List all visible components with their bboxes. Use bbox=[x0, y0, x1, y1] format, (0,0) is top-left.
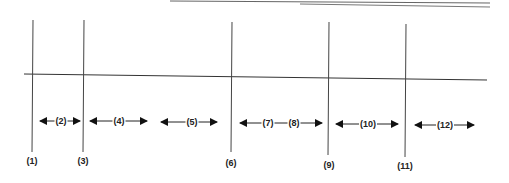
line-label-11: (11) bbox=[397, 161, 413, 171]
line-label-3: (3) bbox=[78, 156, 89, 166]
diagram-canvas bbox=[0, 0, 509, 183]
page-edge-lines bbox=[170, 1, 490, 7]
vertical-line-11 bbox=[405, 24, 406, 157]
interval-label-10: (10) bbox=[359, 119, 377, 129]
interval-label-5: (5) bbox=[186, 117, 199, 127]
line-label-6: (6) bbox=[226, 158, 237, 168]
vertical-line-6 bbox=[231, 22, 232, 152]
horizontal-line bbox=[24, 74, 487, 80]
vertical-line-9 bbox=[328, 22, 329, 155]
line-label-9: (9) bbox=[324, 160, 335, 170]
interval-label-2: (2) bbox=[55, 116, 68, 126]
vertical-line-3 bbox=[83, 20, 84, 152]
interval-label-4: (4) bbox=[113, 116, 126, 126]
interval-label-8: (8) bbox=[288, 118, 301, 128]
interval-label-7: (7) bbox=[262, 118, 275, 128]
line-label-1: (1) bbox=[27, 156, 38, 166]
vertical-line-1 bbox=[32, 20, 33, 152]
interval-label-12: (12) bbox=[436, 120, 454, 130]
